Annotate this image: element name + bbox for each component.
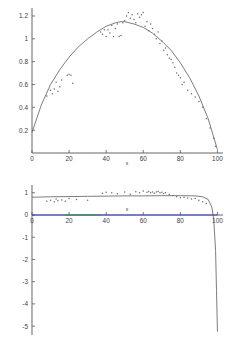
data-point xyxy=(133,19,135,21)
data-point xyxy=(154,192,155,194)
bottom-scatter-points xyxy=(46,190,207,204)
data-point xyxy=(139,192,141,194)
data-point xyxy=(191,93,193,95)
data-point xyxy=(131,14,133,16)
data-point xyxy=(104,29,106,31)
data-point xyxy=(124,20,126,22)
data-point xyxy=(172,195,174,197)
data-point xyxy=(46,95,48,97)
x-tick-label: 40 xyxy=(103,155,111,162)
data-point xyxy=(174,67,176,69)
data-point xyxy=(102,34,104,36)
data-point xyxy=(206,203,208,205)
data-point xyxy=(68,198,70,200)
data-point xyxy=(61,199,62,201)
data-point xyxy=(118,36,120,38)
top-tick-marks xyxy=(32,16,217,153)
data-point xyxy=(61,79,63,81)
data-point xyxy=(109,32,111,34)
data-point xyxy=(107,29,109,31)
data-point xyxy=(155,191,157,193)
y-tick-label: 1.2 xyxy=(19,12,28,19)
data-point xyxy=(55,198,56,200)
data-point xyxy=(183,81,185,83)
data-point xyxy=(194,198,196,200)
data-point xyxy=(130,18,132,20)
top-plot-panel: 0204060801000.20.40.60.811.2 x xyxy=(0,0,236,175)
y-tick-label: -5 xyxy=(22,323,28,330)
top-axes xyxy=(32,8,223,153)
y-tick-label: -2 xyxy=(22,256,28,263)
data-point xyxy=(168,57,170,59)
data-point xyxy=(202,201,203,203)
data-point xyxy=(87,200,88,202)
data-point xyxy=(165,47,167,49)
data-point xyxy=(194,96,196,98)
data-point xyxy=(57,91,59,93)
data-point xyxy=(137,13,139,15)
x-tick-label: 40 xyxy=(103,217,111,224)
data-point xyxy=(111,24,113,26)
data-point xyxy=(206,118,208,120)
figure-container: 0204060801000.20.40.60.811.2 x 020406080… xyxy=(0,0,236,347)
data-point xyxy=(178,75,180,77)
data-point xyxy=(50,200,51,202)
y-tick-label: 1 xyxy=(24,189,28,196)
data-point xyxy=(128,12,130,14)
y-tick-label: 1 xyxy=(24,35,28,42)
data-point xyxy=(130,194,131,196)
data-point xyxy=(120,35,122,37)
data-point xyxy=(187,197,189,199)
y-tick-label: -3 xyxy=(22,278,28,285)
data-point xyxy=(155,38,157,40)
bottom-plot-svg: 02040608010010-1-2-3-4-5 x xyxy=(0,175,236,347)
data-point xyxy=(198,101,200,103)
data-point xyxy=(105,36,107,38)
data-point xyxy=(161,192,162,194)
data-point xyxy=(143,190,145,192)
data-point xyxy=(163,193,164,195)
y-tick-label: -1 xyxy=(22,234,28,241)
data-point xyxy=(117,193,118,195)
y-tick-label: 0.2 xyxy=(19,127,28,134)
data-point xyxy=(70,75,72,77)
x-tick-label: 80 xyxy=(177,155,185,162)
bottom-x-axis-title: x xyxy=(126,206,129,212)
data-point xyxy=(180,77,182,79)
top-fitted-curve xyxy=(32,22,217,150)
data-point xyxy=(157,31,159,33)
data-point xyxy=(165,192,166,194)
data-point xyxy=(124,191,125,193)
data-point xyxy=(187,89,189,91)
data-point xyxy=(202,107,204,109)
data-point xyxy=(46,200,47,202)
x-tick-label: 80 xyxy=(177,217,185,224)
data-point xyxy=(55,81,57,83)
bottom-plot-panel: 02040608010010-1-2-3-4-5 x xyxy=(0,175,236,347)
top-x-axis-title: x xyxy=(126,160,129,166)
data-point xyxy=(52,93,54,95)
x-tick-label: 60 xyxy=(140,217,148,224)
data-point xyxy=(126,15,128,17)
x-tick-label: 0 xyxy=(30,155,34,162)
data-point xyxy=(176,72,178,74)
data-point xyxy=(168,194,170,196)
data-point xyxy=(215,145,217,147)
data-point xyxy=(191,198,192,200)
data-point xyxy=(50,89,52,91)
y-tick-label: 0.4 xyxy=(19,104,28,111)
data-point xyxy=(146,21,148,23)
data-point xyxy=(54,88,56,90)
data-point xyxy=(146,192,147,194)
data-point xyxy=(102,192,103,194)
y-tick-label: 0.6 xyxy=(19,81,28,88)
data-point xyxy=(159,192,161,194)
bottom-tick-labels: 02040608010010-1-2-3-4-5 xyxy=(22,189,223,329)
data-point xyxy=(53,201,54,203)
data-point xyxy=(157,191,159,193)
data-point xyxy=(152,191,153,193)
data-point xyxy=(161,40,163,42)
top-plot-svg: 0204060801000.20.40.60.811.2 x xyxy=(0,0,236,175)
data-point xyxy=(198,200,200,202)
x-tick-label: 20 xyxy=(66,217,74,224)
